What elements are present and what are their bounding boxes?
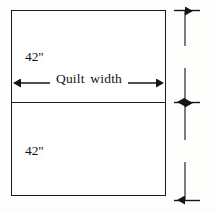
quilt-panel-divider (11, 102, 166, 103)
quilt-outline (11, 10, 166, 196)
bottom-panel-height-label: 42'' (24, 143, 44, 159)
height-dimension-lines (160, 0, 215, 212)
quilt-dimension-diagram: Quilt width 42'' 42'' (0, 0, 215, 212)
top-panel-height-label: 42'' (24, 49, 44, 65)
quilt-width-label: Quilt width (50, 70, 128, 88)
